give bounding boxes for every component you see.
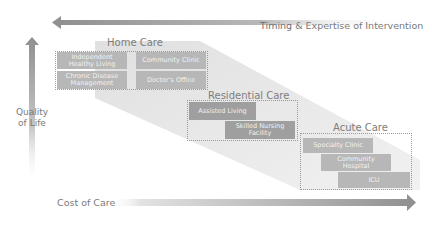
chronic-disease-management-cell: Chronic Disease Management — [57, 71, 127, 89]
timing-axis-label: Timing & Expertise of Intervention — [260, 20, 423, 31]
cost-axis-label: Cost of Care — [57, 197, 115, 208]
quality-axis-label-line2: of Life — [14, 118, 50, 129]
doctors-office-cell: Doctor's Office — [136, 71, 206, 89]
home-care-title: Home Care — [107, 37, 163, 48]
timing-axis-label-rest: & Expertise of Intervention — [292, 20, 423, 31]
quality-axis-label-line1: Quality — [14, 107, 50, 118]
specialty-clinic-cell: Specialty Clinic — [303, 138, 373, 153]
acute-care-title: Acute Care — [333, 122, 388, 133]
timing-axis-label-strong: Timing — [260, 20, 292, 31]
independent-healthy-living-cell: Independent Healthy Living — [57, 52, 127, 69]
quality-axis-label: Quality of Life — [14, 107, 50, 129]
community-hospital-cell: Community Hospital — [321, 154, 391, 171]
community-clinic-cell: Community Clinic — [136, 52, 206, 69]
assisted-living-cell: Assisted Living — [189, 102, 256, 120]
skilled-nursing-facility-cell: Skilled Nursing Facility — [225, 121, 295, 139]
cost-arrow-icon — [110, 194, 416, 211]
icu-cell: ICU — [338, 172, 410, 188]
